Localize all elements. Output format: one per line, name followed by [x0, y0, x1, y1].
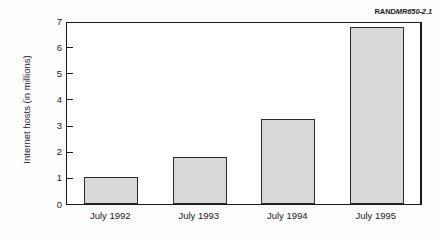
y-axis-tick-mark	[67, 73, 73, 74]
y-axis-tick-mark	[67, 99, 73, 100]
y-axis-tick-mark	[67, 21, 73, 22]
x-axis-tick-label: July 1994	[243, 210, 332, 221]
y-axis-tick-label: 4	[57, 93, 62, 106]
y-axis-tick-label: 6	[57, 41, 62, 54]
y-axis-title: Internet hosts (in millions)	[21, 15, 32, 205]
y-axis-tick-mark	[67, 178, 73, 179]
bar	[350, 27, 404, 204]
y-axis-tick-label: 0	[57, 198, 62, 211]
bar	[173, 157, 227, 204]
figure-container: RANDMR650-2.1 Internet hosts (in million…	[0, 0, 442, 242]
x-axis-tick-label: July 1992	[66, 210, 155, 221]
y-axis-tick-label: 3	[57, 119, 62, 132]
y-axis-tick-label: 1	[57, 171, 62, 184]
y-axis-tick-mark	[67, 204, 73, 205]
report-id-prefix: RAND	[375, 7, 396, 16]
x-axis-tick-label: July 1995	[332, 210, 421, 221]
plot-area: 01234567	[66, 22, 422, 205]
report-id-number: MR650-2.1	[396, 7, 432, 16]
x-axis-tick-label: July 1993	[155, 210, 244, 221]
bar	[84, 177, 138, 204]
y-axis-tick-mark	[67, 152, 73, 153]
y-axis-tick-label: 2	[57, 145, 62, 158]
y-axis-tick-label: 7	[57, 15, 62, 28]
y-axis-tick-label: 5	[57, 67, 62, 80]
y-axis-tick-mark	[67, 126, 73, 127]
y-axis-tick-mark	[67, 47, 73, 48]
bar	[261, 119, 315, 204]
report-id: RANDMR650-2.1	[375, 7, 432, 16]
